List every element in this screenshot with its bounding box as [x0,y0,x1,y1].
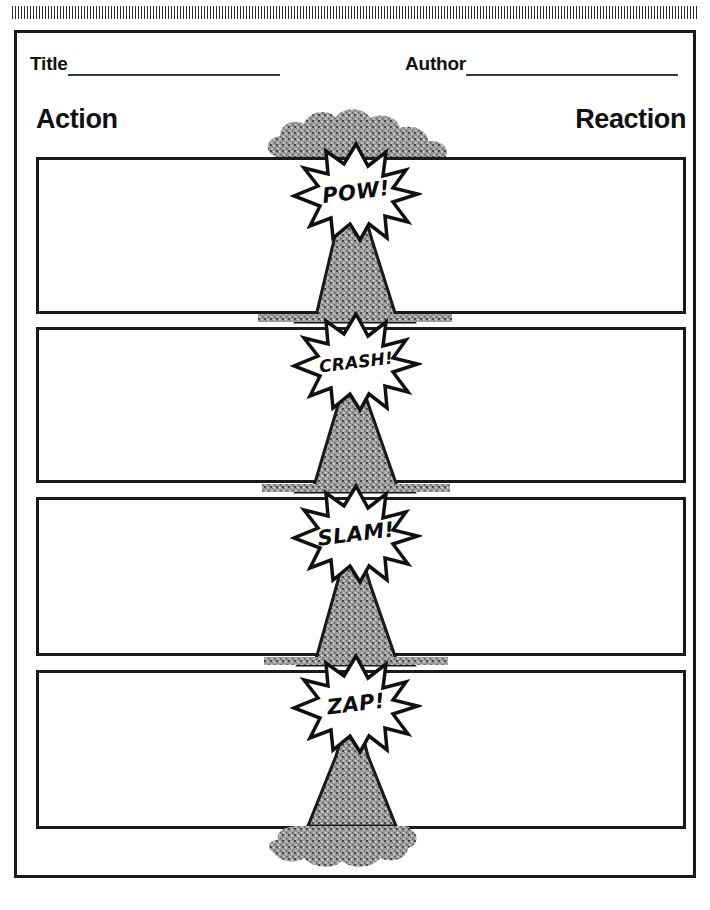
author-label: Author [405,54,466,76]
column-header-action: Action [36,106,118,133]
starburst-label-3: SLAM! [284,474,428,593]
top-hatch-rule [12,6,698,19]
starburst-label-4: ZAP! [284,644,428,763]
starburst-row-1: POW! [290,140,422,244]
starburst-label-2: CRASH! [284,302,428,421]
title-input-rule[interactable] [68,73,280,76]
starburst-label-1: POW! [284,132,428,251]
meta-row: Title Author [30,46,680,80]
title-field[interactable]: Title [30,46,280,76]
starburst-row-2: CRASH! [290,310,422,414]
author-input-rule[interactable] [466,73,678,76]
starburst-row-4: ZAP! [290,652,422,756]
author-field[interactable]: Author [405,46,678,76]
starburst-row-3: SLAM! [290,482,422,586]
column-header-reaction: Reaction [575,106,686,133]
title-label: Title [30,54,68,76]
